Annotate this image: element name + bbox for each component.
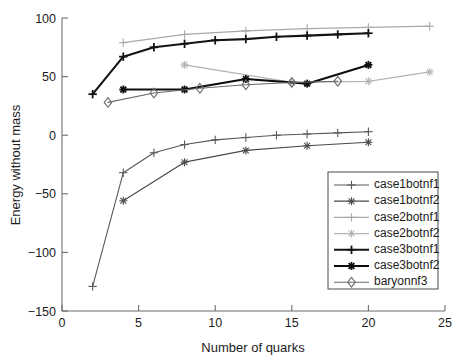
data-point-marker-asterisk (242, 75, 250, 83)
chart-figure: −150−100−50050100 0510152025 Number of q… (0, 0, 453, 364)
y-tick-label: 0 (49, 129, 56, 143)
data-point-marker-asterisk (426, 68, 434, 76)
y-tick-label: −100 (28, 246, 56, 260)
data-point-marker-asterisk (242, 146, 250, 154)
series-line-case1botnf1 (93, 132, 369, 287)
data-point-marker-plus (180, 40, 188, 48)
x-tick-label: 20 (361, 316, 375, 330)
data-point-marker-plus (425, 22, 433, 30)
data-point-marker-plus (150, 43, 158, 51)
data-point-marker-plus (242, 35, 250, 43)
data-point-marker-plus (272, 33, 280, 41)
data-point-marker-plus (334, 30, 342, 38)
x-tick-label: 5 (135, 316, 142, 330)
y-tick-label: −150 (28, 305, 56, 319)
data-point-marker-asterisk (364, 61, 372, 69)
x-tick-label: 10 (208, 316, 222, 330)
series-line-case3botnf1 (93, 33, 369, 94)
legend: case1botnf1case1botnf2case2botnf1case2bo… (328, 172, 440, 289)
data-point-marker-asterisk (119, 197, 127, 205)
y-tick-label: −50 (35, 187, 56, 201)
line-chart: −150−100−50050100 0510152025 Number of q… (0, 0, 453, 364)
data-point-marker-plus (364, 127, 372, 135)
data-point-marker-plus (334, 129, 342, 137)
data-point-marker-plus (180, 140, 188, 148)
series-baryonnf3 (104, 76, 341, 107)
data-point-marker-asterisk (181, 61, 189, 69)
legend-label: case2botnf2 (374, 226, 440, 240)
y-tick-label: 100 (35, 12, 56, 26)
x-tick-label: 0 (59, 316, 66, 330)
legend-label: case3botnf1 (374, 242, 440, 256)
data-point-marker-plus (180, 30, 188, 38)
legend-label: case2botnf1 (374, 210, 440, 224)
data-point-marker-asterisk (303, 142, 311, 150)
data-point-marker-plus (242, 133, 250, 141)
data-point-marker-asterisk (348, 197, 356, 205)
series-case3botnf2 (119, 61, 372, 94)
legend-label: case1botnf1 (374, 177, 440, 191)
data-point-marker-plus (303, 130, 311, 138)
data-point-marker-plus (119, 169, 127, 177)
x-axis-title: Number of quarks (201, 340, 305, 355)
legend-label: baryonnf3 (374, 274, 428, 288)
series-case3botnf1 (88, 29, 372, 98)
data-point-marker-plus (150, 149, 158, 157)
data-point-marker-asterisk (364, 138, 372, 146)
x-axis-ticks: 0510152025 (59, 305, 452, 330)
y-tick-label: 50 (42, 70, 56, 84)
data-point-marker-plus (88, 282, 96, 290)
data-point-marker-asterisk (364, 77, 372, 85)
x-tick-label: 25 (438, 316, 452, 330)
data-point-marker-plus (211, 136, 219, 144)
data-point-marker-plus (364, 29, 372, 37)
x-tick-label: 15 (285, 316, 299, 330)
y-axis-title: Energy without mass (8, 104, 23, 225)
data-point-marker-plus (119, 38, 127, 46)
data-point-marker-asterisk (348, 230, 356, 238)
data-point-marker-asterisk (348, 262, 356, 270)
legend-label: case1botnf2 (374, 193, 440, 207)
data-point-marker-plus (272, 131, 280, 139)
data-point-marker-plus (211, 36, 219, 44)
legend-label: case3botnf2 (374, 258, 440, 272)
data-point-marker-plus (242, 27, 250, 35)
data-point-marker-asterisk (119, 86, 127, 94)
data-point-marker-plus (303, 31, 311, 39)
data-point-marker-asterisk (303, 80, 311, 88)
data-point-marker-asterisk (181, 158, 189, 166)
